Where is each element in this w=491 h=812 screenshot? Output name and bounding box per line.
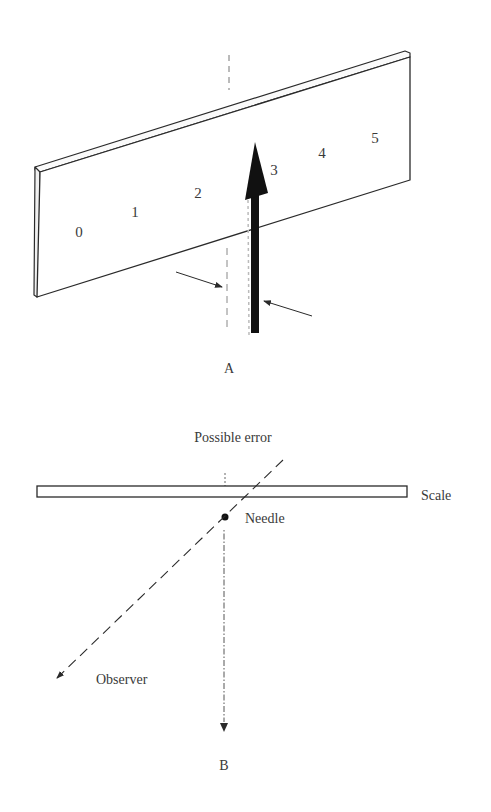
- scale-number-2: 2: [194, 185, 202, 201]
- figure-b: Possible error Scale Needle Observer B: [37, 430, 451, 773]
- scale-number-0: 0: [75, 224, 83, 240]
- figure-a: 0 1 2 3 4 5 A: [34, 51, 410, 376]
- scale-label: Scale: [421, 488, 451, 503]
- scale-bar: [37, 486, 407, 497]
- parallax-diagram: 0 1 2 3 4 5 A Possible error Scale Needl…: [0, 0, 491, 812]
- scale-number-5: 5: [371, 130, 379, 146]
- scale-number-3: 3: [270, 162, 278, 178]
- figure-b-label: B: [219, 758, 228, 773]
- scale-number-4: 4: [318, 145, 326, 161]
- scale-number-1: 1: [131, 204, 139, 220]
- view-arrow-left-icon: [176, 272, 222, 287]
- possible-error-label: Possible error: [194, 430, 272, 445]
- figure-a-label: A: [224, 361, 235, 376]
- scale-board-face: [37, 57, 410, 297]
- correct-sight-arrowhead-icon: [220, 723, 228, 732]
- view-arrow-right-icon: [264, 301, 312, 316]
- needle-dot-icon: [222, 514, 229, 521]
- needle-reflection: [248, 200, 249, 335]
- needle-label: Needle: [245, 511, 285, 526]
- observer-label: Observer: [96, 672, 148, 687]
